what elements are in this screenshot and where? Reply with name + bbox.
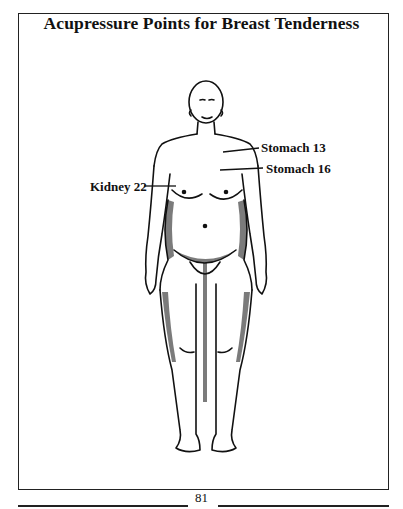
point-label-stomach-16: Stomach 16 <box>266 161 331 177</box>
body-illustration <box>0 0 403 509</box>
point-label-stomach-13: Stomach 13 <box>261 140 326 156</box>
page-number: 81 <box>0 490 403 506</box>
point-label-kidney-22: Kidney 22 <box>90 179 147 195</box>
footer-rule-right <box>218 505 389 507</box>
